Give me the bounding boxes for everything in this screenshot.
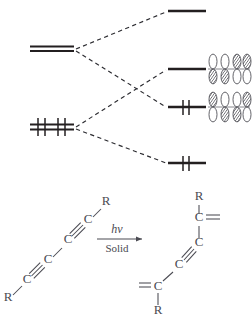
photopolymerization-scheme: R C C C C R [0,186,252,322]
reaction-conditions: hν Solid [97,222,142,254]
homo-p-orbital-array [208,92,251,122]
electron-pair-arrows [38,118,65,136]
reactant-carbon-3: C [64,231,73,246]
reactant-substituent-right: R [102,193,111,208]
bond-triple [74,227,85,238]
diacetylene-monomer: R C C C C R [4,193,111,304]
correlation-lines [76,12,166,163]
polydiacetylene-repeat-unit: C R C C C R [139,188,220,317]
reaction-arrow [97,236,142,241]
bond-triple [70,223,81,234]
condition-above-arrow: hν [111,222,123,236]
correlation-line-lower-to-lumo [76,70,166,127]
lumo-p-orbital-array [208,54,251,84]
figure-root: R C C C C R [0,0,252,322]
arrow-head [136,236,142,241]
orbital-correlation-diagram [0,0,252,190]
right-level-4-homo-minus [168,156,206,171]
bond-triple [186,251,196,262]
bond-single [93,209,101,217]
correlation-line-lower-to-bottom [76,129,166,163]
bond-triple [72,225,83,236]
bond-single [13,286,22,295]
left-upper-degenerate-pair [30,47,74,52]
bond-triple [34,267,45,278]
bond-triple [184,249,194,260]
reactant-carbon-2: C [44,251,53,266]
reactant-substituent-left: R [4,289,13,304]
left-lower-degenerate-pair [30,118,74,136]
bond-single [163,272,173,281]
product-substituent-top: R [195,188,204,203]
bond-triple [32,265,43,276]
bond-triple [182,247,192,258]
right-level-3-homo [168,92,251,122]
bond-single [53,248,62,257]
correlation-line-upper-to-top [76,12,166,49]
product-carbon-2: C [175,256,184,271]
reactant-carbon-4: C [84,211,93,226]
condition-below-arrow: Solid [105,242,129,254]
product-carbon-1: C [154,278,163,293]
right-level-2-lumo [168,54,251,84]
bond-triple [29,263,40,274]
